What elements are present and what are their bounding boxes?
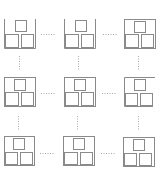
top-box xyxy=(15,80,26,91)
top-box xyxy=(134,140,145,151)
bottom-left-box xyxy=(66,35,79,48)
bottom-right-box xyxy=(140,154,152,166)
container-closed xyxy=(64,137,95,166)
cell-r0-c2 xyxy=(125,20,156,49)
bottom-right-box xyxy=(82,93,94,106)
cell-r2-c2 xyxy=(124,138,155,167)
bottom-left-box xyxy=(6,35,19,48)
bottom-left-box xyxy=(6,153,18,165)
top-box xyxy=(14,139,25,150)
top-box xyxy=(76,21,87,32)
cell-r0-c1 xyxy=(65,19,96,49)
bottom-right-box xyxy=(142,35,154,48)
top-box xyxy=(135,80,146,91)
cell-r1-c1 xyxy=(65,78,96,107)
container-open-top xyxy=(65,19,96,49)
top-box xyxy=(16,21,27,32)
bottom-left-box xyxy=(66,93,79,106)
bottom-right-box xyxy=(141,94,153,106)
bottom-right-box xyxy=(81,153,93,165)
bottom-right-box xyxy=(82,35,94,48)
bottom-right-box xyxy=(22,35,34,48)
bottom-left-box xyxy=(125,154,137,166)
box-grid-diagram xyxy=(0,0,161,173)
bottom-left-box xyxy=(126,94,138,106)
bottom-left-box xyxy=(65,153,78,165)
cell-r1-c0 xyxy=(5,78,36,107)
cell-r2-c1 xyxy=(64,137,95,166)
bottom-right-box xyxy=(21,153,33,165)
top-box xyxy=(135,22,146,33)
bottom-left-box xyxy=(6,93,19,106)
container-open-top xyxy=(5,19,36,49)
container-open-right xyxy=(125,78,156,107)
bottom-right-box xyxy=(22,93,34,106)
cell-r1-c2 xyxy=(125,78,156,107)
cell-r2-c0 xyxy=(5,137,35,166)
cell-r0-c0 xyxy=(5,19,36,49)
container-closed xyxy=(5,137,35,166)
top-box xyxy=(74,139,85,150)
bottom-left-box xyxy=(126,35,139,48)
top-box xyxy=(75,80,86,91)
